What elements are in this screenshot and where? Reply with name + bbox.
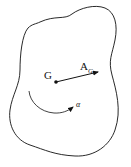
- acceleration-label: AG: [80, 61, 93, 75]
- body-outline: [10, 6, 119, 156]
- angular-acceleration-arc-icon: [29, 91, 73, 113]
- center-label: G: [44, 70, 52, 81]
- angular-acceleration-label: α: [76, 101, 80, 109]
- rigid-body-diagram: G AG α: [0, 0, 131, 167]
- acceleration-label-main: A: [80, 60, 88, 72]
- diagram-graphics: [0, 0, 131, 167]
- acceleration-label-subscript: G: [88, 67, 93, 75]
